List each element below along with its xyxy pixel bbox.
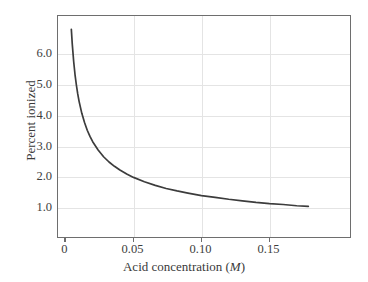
x-tick-label: 0.05: [122, 243, 144, 256]
data-curve: [58, 16, 351, 238]
x-axis-title-text: Acid concentration (: [123, 259, 230, 274]
x-axis-title: Acid concentration (M): [0, 259, 368, 274]
x-axis-title-close: ): [241, 259, 245, 274]
chart-figure: 1.02.03.04.05.06.0 00.050.100.15 Acid co…: [0, 0, 368, 282]
x-tick-label: 0.15: [258, 243, 280, 256]
x-tick-label: 0.10: [190, 243, 212, 256]
x-tick-mark: [133, 238, 134, 242]
x-tick-mark: [269, 238, 270, 242]
x-axis-tick-labels: 00.050.100.15: [0, 243, 368, 259]
x-axis-title-unit: M: [230, 259, 241, 274]
y-axis-title: Percent ionized: [23, 31, 38, 211]
x-tick-mark: [201, 238, 202, 242]
x-tick-label: 0: [61, 243, 67, 256]
x-tick-mark: [64, 238, 65, 242]
plot-area: [57, 15, 351, 238]
